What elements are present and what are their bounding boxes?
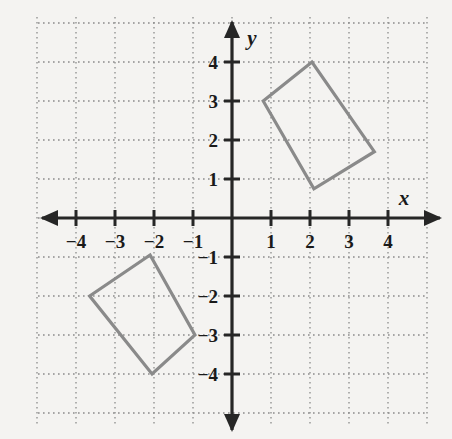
x-tick-label: −4 xyxy=(66,231,87,252)
coordinate-plane-figure: −4−3−2−112344321−1−2−3−4 x y xyxy=(0,0,452,439)
x-tick-label: −3 xyxy=(105,231,125,252)
y-tick-label: 4 xyxy=(209,52,219,73)
y-tick-label: −4 xyxy=(198,364,219,385)
y-tick-label: −3 xyxy=(198,325,218,346)
x-tick-label: 1 xyxy=(266,231,276,252)
y-tick-label: 3 xyxy=(209,91,219,112)
x-tick-label: 4 xyxy=(383,231,393,252)
y-tick-label: −1 xyxy=(198,247,218,268)
coordinate-plane-svg: −4−3−2−112344321−1−2−3−4 x y xyxy=(0,0,452,439)
x-tick-label: 2 xyxy=(305,231,315,252)
y-tick-label: 2 xyxy=(209,130,219,151)
y-tick-label: −2 xyxy=(198,286,218,307)
x-axis-label: x xyxy=(398,186,410,210)
y-tick-label: 1 xyxy=(209,169,219,190)
x-tick-label: −2 xyxy=(144,231,164,252)
x-tick-label: 3 xyxy=(344,231,354,252)
